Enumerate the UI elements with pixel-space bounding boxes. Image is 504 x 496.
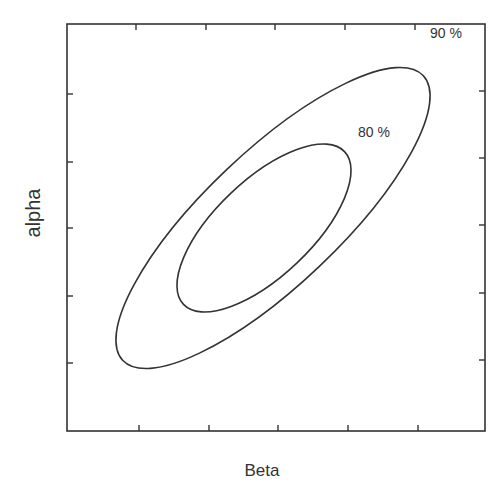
contour-80-percent <box>150 117 377 339</box>
contour-label-80: 80 % <box>358 124 390 140</box>
x-axis-label: Beta <box>245 461 281 480</box>
y-ticks <box>67 91 485 363</box>
chart-canvas: 90 % 80 % Beta alpha <box>0 0 504 496</box>
y-axis-label: alpha <box>22 188 44 238</box>
plot-frame <box>67 24 485 431</box>
contour-90-percent <box>77 27 470 409</box>
x-ticks <box>136 24 418 431</box>
contour-label-90: 90 % <box>430 25 462 41</box>
